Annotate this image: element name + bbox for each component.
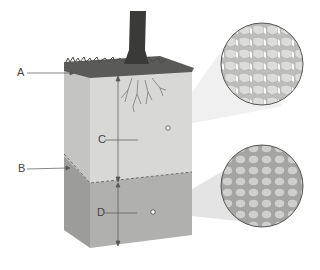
tree-trunk [124, 11, 149, 64]
label-b: B [18, 163, 25, 174]
label-d: D [97, 207, 105, 218]
block-front-lower [90, 172, 192, 248]
label-c: C [98, 134, 106, 145]
label-a: A [17, 67, 24, 78]
block-front-upper [90, 70, 192, 183]
lower-sample-point [151, 210, 155, 214]
upper-sample-point [166, 126, 170, 130]
soil-diagram [0, 0, 320, 270]
